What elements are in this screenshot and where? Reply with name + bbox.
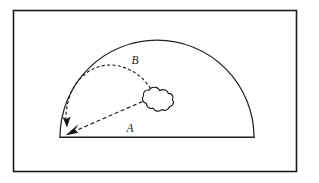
diagram-canvas: B A [0, 0, 319, 183]
figure-container: B A [0, 0, 319, 183]
label-a: A [125, 122, 134, 134]
label-b: B [131, 54, 138, 66]
